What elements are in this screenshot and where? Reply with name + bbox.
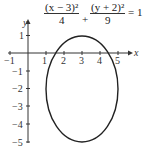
plus-sign: + (82, 13, 88, 25)
x-tick-label: 2 (61, 55, 66, 66)
equation: (x − 3)² 4 + (y + 2)² 9 = 1 (42, 0, 143, 32)
y-tick-label: 1 (19, 30, 24, 41)
y-axis-label: y (22, 17, 28, 28)
x-tick-label: −1 (4, 55, 15, 66)
x-tick-label: 1 (42, 55, 47, 66)
x-tick-label: 5 (115, 55, 120, 66)
y-tick-label: −3 (12, 101, 23, 112)
term-1-numerator: (x − 3)² (44, 1, 79, 14)
x-tick-label: 4 (97, 55, 102, 66)
x-tick-label: 3 (79, 55, 84, 66)
y-tick-label: −2 (12, 83, 23, 94)
term-2-numerator: (y + 2)² (90, 1, 125, 14)
x-axis-arrow-icon (128, 51, 133, 56)
y-tick-label: −4 (12, 119, 23, 130)
equation-term-1: (x − 3)² 4 (44, 1, 79, 26)
y-tick-label: −5 (12, 137, 23, 148)
term-2-denominator: 9 (90, 14, 125, 26)
x-axis-label: x (133, 47, 139, 58)
term-1-denominator: 4 (44, 14, 79, 26)
y-tick-label: −1 (12, 66, 23, 77)
equals-one: = 1 (128, 6, 142, 18)
equation-term-2: (y + 2)² 9 (90, 1, 125, 26)
